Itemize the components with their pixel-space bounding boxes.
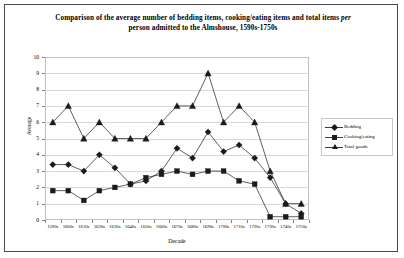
data-point-marker (268, 214, 273, 219)
data-point-marker (97, 188, 102, 193)
series-total-goods (50, 70, 305, 206)
legend-label: Total goods (344, 142, 367, 152)
legend-item-bedding[interactable]: Bedding (324, 122, 390, 132)
data-point-marker (283, 214, 288, 219)
legend-symbol-triangle-icon (324, 142, 344, 152)
x-axis-tick-mark (138, 220, 139, 223)
x-axis-tick-mark (278, 220, 279, 223)
data-point-marker (220, 148, 226, 154)
x-axis-tick-mark (309, 220, 310, 223)
data-point-marker (299, 214, 304, 219)
data-point-marker (65, 161, 71, 167)
data-point-marker (144, 175, 149, 180)
data-point-marker (81, 198, 86, 203)
x-axis-tick-mark (293, 220, 294, 223)
series-line (53, 171, 301, 217)
data-point-marker (174, 145, 180, 151)
data-point-marker (206, 169, 211, 174)
data-point-marker (189, 155, 195, 161)
data-point-marker (50, 188, 55, 193)
x-axis-tick-label: 1750s (286, 224, 316, 229)
x-axis-tick-mark (154, 220, 155, 223)
x-axis-tick-mark (185, 220, 186, 223)
legend-label: Bedding (344, 122, 361, 132)
legend-item-cooking-eating[interactable]: Cooking/eating (324, 132, 390, 142)
x-axis-tick-mark (216, 220, 217, 223)
x-axis-tick-mark (76, 220, 77, 223)
data-point-marker (236, 103, 242, 109)
series-line (53, 73, 301, 203)
x-axis-tick-mark (200, 220, 201, 223)
chart-legend: BeddingCooking/eatingTotal goods (321, 118, 393, 156)
x-axis-tick-mark (169, 220, 170, 223)
data-point-marker (252, 182, 257, 187)
data-point-marker (175, 169, 180, 174)
x-axis-tick-mark (262, 220, 263, 223)
data-point-marker (50, 161, 56, 167)
data-point-marker (128, 182, 133, 187)
x-axis-tick-mark (107, 220, 108, 223)
x-axis-tick-mark (61, 220, 62, 223)
x-axis-tick-mark (92, 220, 93, 223)
data-point-marker (190, 172, 195, 177)
data-point-marker (112, 185, 117, 190)
data-point-marker (237, 178, 242, 183)
data-point-marker (267, 168, 273, 174)
data-point-marker (221, 169, 226, 174)
legend-symbol-diamond-icon (324, 122, 344, 132)
data-point-marker (96, 119, 102, 125)
x-axis-tick-mark (247, 220, 248, 223)
legend-item-total-goods[interactable]: Total goods (324, 142, 390, 152)
x-axis-title: Decade (45, 238, 309, 244)
data-point-marker (66, 188, 71, 193)
legend-label: Cooking/eating (344, 132, 375, 142)
x-axis-tick-mark (123, 220, 124, 223)
data-point-marker (159, 172, 164, 177)
data-point-marker (205, 70, 211, 76)
x-axis-tick-mark (231, 220, 232, 223)
chart-container: Comparison of the average number of bedd… (4, 4, 398, 252)
legend-symbol-square-icon (324, 132, 344, 142)
data-point-marker (65, 103, 71, 109)
series-cooking-eating (50, 169, 303, 219)
x-axis-tick-mark (45, 220, 46, 223)
